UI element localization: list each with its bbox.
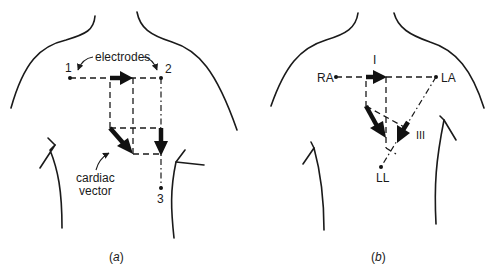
torso-outline-b [271,13,484,230]
electrode-RA-label: RA [317,71,334,85]
cardiac-vector-label-line1: cardiac [76,171,115,185]
cardiac-vector-pointer [96,153,109,170]
cardiac-vector-arrow [110,128,133,154]
electrode-LL-label: LL [376,171,390,185]
electrode-3-label: 3 [157,192,164,206]
lead-III-label: III [416,129,425,141]
caption-a: (a) [109,250,124,264]
lead-1-2-vector-arrow [110,71,133,85]
electrodes-pointer-left [78,57,93,70]
lead-III-line [381,77,436,167]
lead-I-vector-arrow [366,70,387,84]
electrodes-label: electrodes [95,50,150,64]
cardiac-vector-label-line2: vector [79,184,112,198]
panel-b: RA LA LL I III ( [271,13,484,264]
caption-b: (b) [371,250,386,264]
lead-2-3-vector-arrow [154,128,168,156]
lead-III-vector-arrow [397,122,410,143]
torso-outline-a [11,12,237,238]
projection-box-a [110,78,161,154]
lead-I-label: I [373,53,376,67]
ecg-vector-figure: 1 2 3 electrodes cardi [0,0,488,266]
electrode-1-label: 1 [65,61,72,75]
electrode-LA-label: LA [441,71,456,85]
electrode-2-label: 2 [165,62,172,76]
panel-a: 1 2 3 electrodes cardi [11,12,237,264]
